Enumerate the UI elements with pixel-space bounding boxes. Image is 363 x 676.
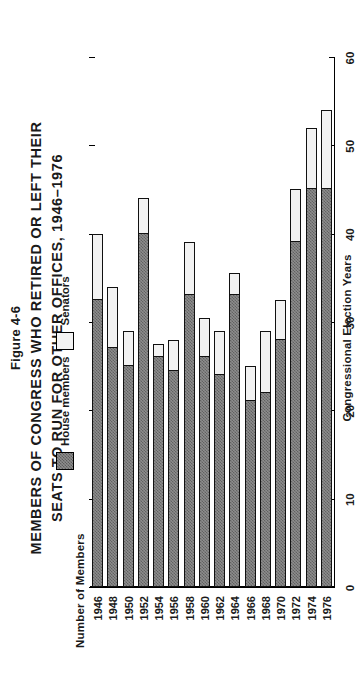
bar-segment-house bbox=[184, 296, 195, 588]
value-tick-label: 30 bbox=[344, 317, 356, 330]
bar-segment-senators bbox=[260, 331, 271, 393]
stacked-bar[interactable] bbox=[123, 331, 134, 587]
value-tick-label: 50 bbox=[344, 140, 356, 153]
bar-segment-senators bbox=[138, 198, 149, 233]
bar-segment-senators bbox=[275, 300, 286, 340]
stacked-bar[interactable] bbox=[245, 366, 256, 587]
rotated-figure-wrapper: Figure 4-6 MEMBERS OF CONGRESS WHO RETIR… bbox=[0, 0, 363, 676]
bar-segment-senators bbox=[290, 190, 301, 243]
stacked-bar[interactable] bbox=[107, 287, 118, 587]
legend-item-house: House members bbox=[56, 357, 74, 470]
category-tick-label: 1956 bbox=[168, 596, 180, 620]
bar-segment-house bbox=[214, 375, 225, 587]
category-tick-label: 1952 bbox=[138, 596, 150, 620]
figure-canvas: Figure 4-6 MEMBERS OF CONGRESS WHO RETIR… bbox=[0, 0, 363, 676]
category-tick-label: 1964 bbox=[229, 596, 241, 620]
category-axis-title: Congressional Election Years bbox=[341, 0, 353, 676]
value-tick-top bbox=[89, 145, 95, 146]
bar-segment-house bbox=[275, 340, 286, 587]
value-tick-label: 0 bbox=[344, 585, 356, 591]
stacked-bar[interactable] bbox=[138, 198, 149, 587]
plot-area: 0102030405060 19461948195019521954195619… bbox=[90, 58, 334, 588]
bar-segment-house bbox=[306, 190, 317, 588]
bar-segment-senators bbox=[214, 331, 225, 375]
category-tick-label: 1946 bbox=[92, 596, 104, 620]
chart-legend: House members Senators bbox=[56, 276, 74, 470]
category-tick-label: 1958 bbox=[184, 596, 196, 620]
stacked-bar[interactable] bbox=[229, 273, 240, 587]
bar-segment-house bbox=[92, 300, 103, 587]
category-tick-label: 1968 bbox=[260, 596, 272, 620]
value-axis-title: Number of Members bbox=[74, 533, 86, 648]
value-tick-top bbox=[89, 57, 95, 58]
bar-segment-senators bbox=[92, 234, 103, 300]
bar-segment-senators bbox=[184, 243, 195, 296]
bar-segment-senators bbox=[229, 273, 240, 295]
stacked-bar[interactable] bbox=[260, 331, 271, 587]
value-tick-label: 60 bbox=[344, 52, 356, 65]
value-tick bbox=[329, 57, 335, 58]
figure-number: Figure 4-6 bbox=[8, 0, 23, 676]
stacked-bar[interactable] bbox=[92, 234, 103, 587]
stacked-bar[interactable] bbox=[184, 243, 195, 588]
category-tick-label: 1970 bbox=[275, 596, 287, 620]
value-tick-label: 20 bbox=[344, 405, 356, 418]
bar-segment-house bbox=[245, 402, 256, 588]
category-tick-label: 1960 bbox=[199, 596, 211, 620]
figure-title-line1: MEMBERS OF CONGRESS WHO RETIRED OR LEFT … bbox=[28, 0, 44, 676]
bar-segment-senators bbox=[153, 344, 164, 357]
bar-segment-senators bbox=[245, 366, 256, 401]
legend-label-senators: Senators bbox=[59, 276, 71, 325]
category-tick-label: 1948 bbox=[107, 596, 119, 620]
category-tick-label: 1976 bbox=[321, 596, 333, 620]
stacked-bar[interactable] bbox=[290, 190, 301, 588]
bar-segment-senators bbox=[199, 318, 210, 358]
bar-segment-house bbox=[168, 371, 179, 587]
category-axis-line bbox=[334, 58, 336, 588]
bar-segment-house bbox=[123, 366, 134, 587]
bar-segment-house bbox=[321, 190, 332, 588]
category-tick-label: 1974 bbox=[306, 596, 318, 620]
legend-swatch-senators-icon bbox=[56, 332, 74, 350]
bar-segment-house bbox=[199, 357, 210, 587]
bar-segment-house bbox=[153, 357, 164, 587]
bar-segment-senators bbox=[168, 340, 179, 371]
value-tick-top bbox=[89, 587, 95, 588]
stacked-bar[interactable] bbox=[321, 110, 332, 587]
value-tick-label: 10 bbox=[344, 493, 356, 506]
bar-segment-house bbox=[107, 349, 118, 588]
stacked-bar[interactable] bbox=[214, 331, 225, 587]
value-tick-label: 40 bbox=[344, 228, 356, 241]
category-tick-label: 1954 bbox=[153, 596, 165, 620]
legend-swatch-house-icon bbox=[56, 452, 74, 470]
bar-segment-house bbox=[290, 243, 301, 588]
stacked-bar[interactable] bbox=[153, 344, 164, 587]
stacked-bar[interactable] bbox=[168, 340, 179, 587]
stacked-bar[interactable] bbox=[275, 300, 286, 587]
bar-segment-senators bbox=[123, 331, 134, 366]
stacked-bar[interactable] bbox=[306, 128, 317, 587]
legend-label-house: House members bbox=[59, 357, 71, 446]
category-tick-label: 1972 bbox=[290, 596, 302, 620]
bar-segment-house bbox=[260, 393, 271, 587]
category-tick-label: 1962 bbox=[214, 596, 226, 620]
category-tick-label: 1950 bbox=[123, 596, 135, 620]
value-tick bbox=[329, 587, 335, 588]
stacked-bar[interactable] bbox=[199, 318, 210, 587]
bar-segment-house bbox=[138, 234, 149, 587]
legend-item-senators: Senators bbox=[56, 276, 74, 349]
bar-segment-house bbox=[229, 296, 240, 588]
category-tick-label: 1966 bbox=[245, 596, 257, 620]
bar-segment-senators bbox=[306, 128, 317, 190]
bar-segment-senators bbox=[321, 110, 332, 190]
bar-segment-senators bbox=[107, 287, 118, 349]
